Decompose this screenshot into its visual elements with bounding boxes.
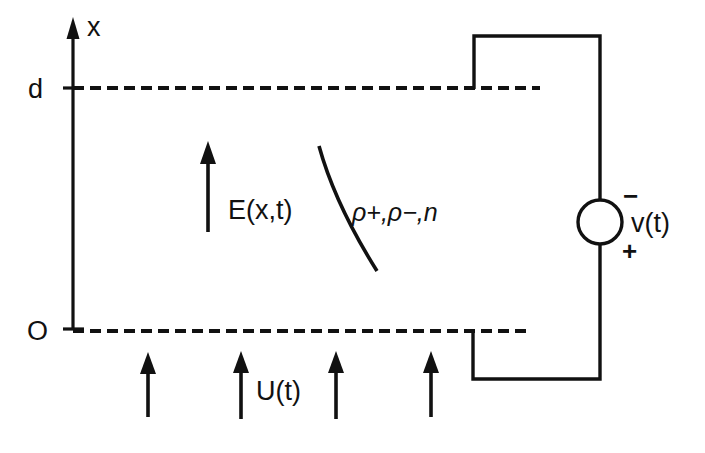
charge-densities-label: ρ+,ρ−,n bbox=[351, 198, 438, 226]
flow-label: U(t) bbox=[256, 376, 301, 406]
field-label: E(x,t) bbox=[228, 195, 293, 225]
source-terminal-negative-label: − bbox=[623, 181, 638, 211]
source-terminal-positive-label: + bbox=[622, 236, 637, 266]
tick-label-origin: O bbox=[27, 316, 48, 346]
tick-label-d: d bbox=[28, 74, 43, 104]
diagram-canvas: x d O E(x,t) ρ+,ρ−,n U(t) v(t) − + bbox=[0, 0, 705, 453]
source-label: v(t) bbox=[631, 208, 670, 238]
x-axis-label: x bbox=[87, 12, 101, 42]
physics-diagram-figure: x d O E(x,t) ρ+,ρ−,n U(t) v(t) − + bbox=[0, 0, 705, 453]
